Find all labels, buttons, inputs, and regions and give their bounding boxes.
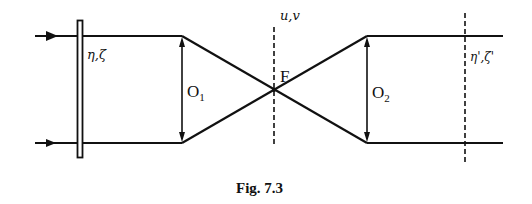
fourier-plane-label: u,v xyxy=(280,9,300,22)
figure-7-3: η,ζ u,v F O1 O2 η',ζ' Fig. 7.3 xyxy=(0,0,532,204)
optical-system-diagram xyxy=(0,0,532,204)
figure-caption: Fig. 7.3 xyxy=(236,181,283,196)
arrow-icon xyxy=(46,31,58,147)
lens-o1-label: O1 xyxy=(187,83,205,100)
lens-o2-label: O2 xyxy=(372,84,390,101)
focal-point xyxy=(272,88,276,92)
input-plane-label: η,ζ xyxy=(87,48,106,61)
output-plane-label: η',ζ' xyxy=(470,51,494,63)
focus-label: F xyxy=(280,68,289,85)
input-plane-plate xyxy=(78,21,83,158)
